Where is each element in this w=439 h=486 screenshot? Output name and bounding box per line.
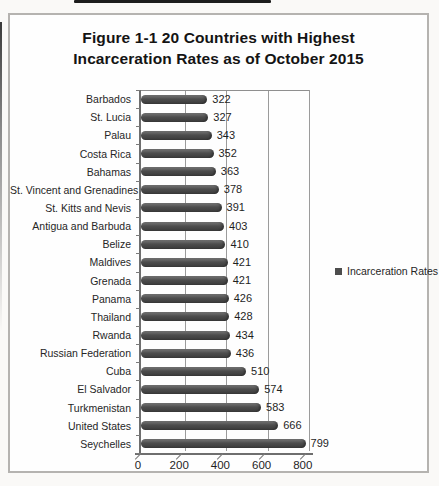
y-axis-tick xyxy=(136,272,140,273)
y-axis-tick xyxy=(136,380,140,381)
bar xyxy=(141,439,306,448)
gridline xyxy=(185,90,186,451)
bar-value-label: 426 xyxy=(234,292,252,305)
bar xyxy=(141,403,261,412)
bar-value-label: 799 xyxy=(311,437,329,450)
bar-value-label: 327 xyxy=(213,111,231,124)
category-label: United States xyxy=(10,419,131,433)
x-axis-tick-label: 800 xyxy=(286,459,320,471)
bar-value-label: 352 xyxy=(219,147,237,160)
bar xyxy=(141,95,207,104)
legend-label: Incarceration Rates xyxy=(347,265,438,277)
bar xyxy=(141,258,228,267)
x-axis-tick-label: 600 xyxy=(245,459,279,471)
category-label: Bahamas xyxy=(10,165,131,179)
y-axis-tick xyxy=(136,235,140,236)
category-label: El Salvador xyxy=(10,382,131,396)
y-axis-tick xyxy=(136,108,140,109)
category-label: Thailand xyxy=(10,310,131,324)
bar-value-label: 403 xyxy=(229,220,247,233)
bar-value-label: 410 xyxy=(230,238,248,251)
bar-value-label: 421 xyxy=(233,256,251,269)
y-axis-tick xyxy=(136,399,140,400)
bar xyxy=(141,240,225,249)
scan-artifact-top-edge xyxy=(74,0,271,3)
y-axis-tick xyxy=(136,435,140,436)
category-label: Belize xyxy=(10,237,131,251)
y-axis-tick xyxy=(136,326,140,327)
bar xyxy=(141,149,214,158)
bar xyxy=(141,331,230,340)
category-label: St. Kitts and Nevis xyxy=(10,201,131,215)
y-axis-tick xyxy=(136,181,140,182)
x-axis-tick-label: 200 xyxy=(162,459,196,471)
legend: Incarceration Rates xyxy=(335,265,438,277)
bar xyxy=(141,276,228,285)
y-axis-tick xyxy=(136,144,140,145)
bar-value-label: 322 xyxy=(212,93,230,106)
category-label: Panama xyxy=(10,292,131,306)
y-axis-tick xyxy=(136,253,140,254)
category-label: Costa Rica xyxy=(10,147,131,161)
category-label: Cuba xyxy=(10,364,131,378)
category-label: Barbados xyxy=(10,92,131,106)
bar-value-label: 421 xyxy=(233,274,251,287)
bar-value-label: 583 xyxy=(266,401,284,414)
category-label: Palau xyxy=(10,128,131,142)
scan-artifact-left-edge xyxy=(0,22,2,332)
y-axis-tick xyxy=(136,290,140,291)
bar-value-label: 666 xyxy=(283,419,301,432)
bar xyxy=(141,113,208,122)
category-label: Rwanda xyxy=(10,328,131,342)
x-axis-tick-label: 0 xyxy=(121,459,155,471)
category-label: Seychelles xyxy=(10,437,131,451)
bar xyxy=(141,294,229,303)
plot-area: 0200400600800Barbados322St. Lucia327Pala… xyxy=(10,15,427,471)
y-axis-tick xyxy=(136,344,140,345)
bar xyxy=(141,185,219,194)
y-axis-tick xyxy=(136,362,140,363)
bar xyxy=(141,349,231,358)
bar xyxy=(141,312,229,321)
y-axis-tick xyxy=(136,217,140,218)
gridline xyxy=(268,90,269,451)
bar-value-label: 574 xyxy=(264,383,282,396)
gridline xyxy=(309,90,310,451)
y-axis-tick xyxy=(136,90,140,91)
y-axis-tick xyxy=(136,163,140,164)
x-axis-line xyxy=(135,453,313,455)
bar-value-label: 378 xyxy=(224,183,242,196)
legend-marker-square xyxy=(335,268,342,275)
category-label: Maldives xyxy=(10,255,131,269)
y-axis-tick xyxy=(136,126,140,127)
category-label: Antigua and Barbuda xyxy=(10,219,131,233)
category-label: Russian Federation xyxy=(10,346,131,360)
bar-value-label: 343 xyxy=(217,129,235,142)
bar xyxy=(141,167,216,176)
bar xyxy=(141,222,224,231)
bar xyxy=(141,367,246,376)
bar-value-label: 363 xyxy=(221,165,239,178)
bar-value-label: 434 xyxy=(235,329,253,342)
category-label: St. Vincent and Grenadines xyxy=(10,183,131,197)
gridline xyxy=(226,90,227,451)
bar xyxy=(141,385,259,394)
plot-top-border xyxy=(140,90,309,91)
y-axis-tick xyxy=(136,417,140,418)
bar-value-label: 428 xyxy=(234,310,252,323)
bar-value-label: 391 xyxy=(227,201,245,214)
bar xyxy=(141,421,278,430)
category-label: Turkmenistan xyxy=(10,401,131,415)
y-axis-tick xyxy=(136,308,140,309)
bar xyxy=(141,203,222,212)
chart-container: Figure 1-1 20 Countries with Highest Inc… xyxy=(8,13,429,473)
bar-value-label: 436 xyxy=(236,347,254,360)
category-label: St. Lucia xyxy=(10,110,131,124)
category-label: Grenada xyxy=(10,274,131,288)
bar-value-label: 510 xyxy=(251,365,269,378)
bar xyxy=(141,131,212,140)
x-axis-tick-label: 400 xyxy=(203,459,237,471)
y-axis-tick xyxy=(136,199,140,200)
